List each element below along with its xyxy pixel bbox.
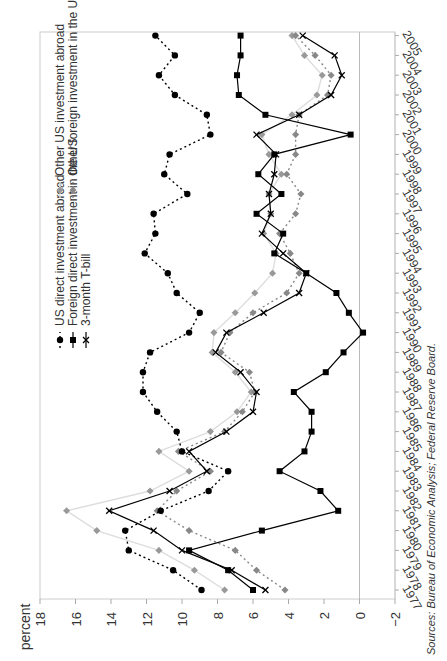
circle-marker [179,448,185,454]
series-line [109,36,342,590]
legend-item: 3-month T-bill [79,254,93,348]
percent-tick-label: 2 [317,612,332,619]
square-marker [348,132,354,138]
series-line [125,36,228,590]
percent-tick-label: 10 [175,612,190,626]
source-note: Sources: Bureau of Economic Analysis; Fe… [425,343,437,655]
square-marker [280,231,286,237]
diamond-marker [297,190,304,197]
square-marker [278,191,284,197]
square-marker [317,488,323,494]
circle-marker [140,389,146,395]
circle-marker [140,369,146,375]
square-marker [360,330,366,336]
circle-marker [225,468,231,474]
diamond-marker [186,468,193,475]
diamond-marker [155,547,162,554]
square-marker [70,337,76,343]
x-marker [280,250,286,256]
circle-marker [147,349,153,355]
x-marker [262,587,268,593]
percent-tick-label: 6 [246,612,261,619]
circle-marker [170,567,176,573]
square-marker [333,290,339,296]
diamond-marker [221,586,228,593]
square-marker [309,429,315,435]
diamond-marker [147,487,154,494]
circle-marker [172,52,178,58]
diamond-marker [292,131,299,138]
diamond-marker [281,586,288,593]
circle-marker [197,310,203,316]
circle-marker [57,337,63,343]
circle-marker [156,72,162,78]
percent-tick-label: 8 [211,612,226,619]
x-marker [151,528,157,534]
x-marker [186,448,192,454]
x-marker [106,508,112,514]
series-us-direct-investment-abroad [122,32,231,593]
series-line [157,36,331,590]
circle-marker [207,131,213,137]
x-marker [300,33,306,39]
circle-marker [173,290,179,296]
x-marker [332,52,338,58]
axis-title: percent [17,604,33,651]
circle-marker [152,32,158,38]
circle-marker [152,230,158,236]
series-other-us-investment-abroad [63,32,326,593]
percent-tick-label: 12 [140,612,155,626]
circle-marker [165,270,171,276]
diamond-marker [207,468,214,475]
percent-tick-label: 18 [33,612,48,626]
circle-marker [173,428,179,434]
percent-tick-label: 16 [69,612,84,626]
plot-frame [40,32,395,599]
legend-item: Other foreign investment in the US [66,0,80,198]
square-marker [341,349,347,355]
legend-label: 3-month T-bill [79,254,93,326]
square-marker [346,310,352,316]
diamond-marker [287,250,294,257]
series-foreign-direct-investment-in-the-us [186,33,366,593]
circle-marker [161,171,167,177]
percent-tick-label: 4 [282,612,297,619]
square-marker [291,389,297,395]
square-marker [234,72,240,78]
circle-marker [198,587,204,593]
legend-label: Other US investment abroad [53,24,67,176]
x-marker [339,72,345,78]
percent-axis-ticks: 181614121086420−2 [33,599,403,627]
rotated-line-chart: 181614121086420−2 1977197819791980198119… [0,0,447,661]
square-marker [236,92,242,98]
square-marker [309,409,315,415]
percent-tick-label: 14 [104,612,119,626]
circle-marker [122,527,128,533]
circle-marker [184,191,190,197]
circle-marker [126,547,132,553]
legend-label: Other foreign investment in the US [66,0,80,176]
x-marker [167,488,173,494]
square-marker [271,250,277,256]
square-marker [301,448,307,454]
series-layer [63,32,366,593]
diamond-marker [239,408,246,415]
square-marker [238,52,244,58]
diamond-marker [292,151,299,158]
circle-marker [142,250,148,256]
circle-marker [205,488,211,494]
diamond-marker [93,527,100,534]
circle-marker [166,151,172,157]
diamond-marker [292,210,299,217]
diamond-marker [283,289,290,296]
circle-marker [150,211,156,217]
circle-marker [204,112,210,118]
x-marker [179,547,185,553]
square-marker [255,171,261,177]
series-other-foreign-investment-in-the-us [154,32,335,593]
square-marker [250,587,256,593]
percent-tick-label: −2 [388,612,403,627]
percent-tick-label: 0 [353,612,368,619]
year-axis-ticks: 1977197819791980198119821983198419851986… [395,28,425,613]
legend: US direct investment abroadForeign direc… [53,0,93,348]
